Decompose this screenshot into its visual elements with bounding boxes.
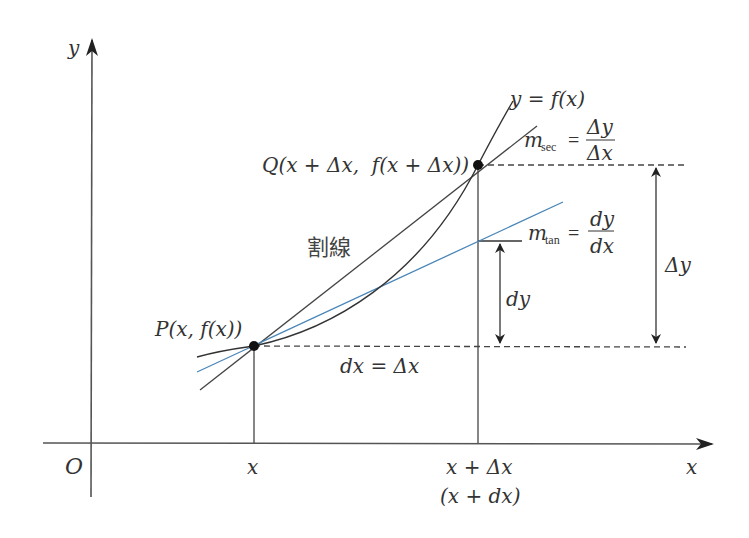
dx-equals-delta-x-label: dx = Δx xyxy=(340,354,419,378)
delta-y-label: Δy xyxy=(664,253,691,277)
svg-text:Δy: Δy xyxy=(586,115,613,139)
point-p xyxy=(249,341,259,351)
point-q xyxy=(473,160,483,170)
svg-text:sec: sec xyxy=(541,140,556,154)
point-p-label: P(x, f(x)) xyxy=(154,317,242,341)
y-axis-label: y xyxy=(67,36,80,60)
x-tick-label: x xyxy=(247,455,258,479)
x-axis-label: x xyxy=(686,455,697,479)
secant-label: 割線 xyxy=(307,235,351,260)
svg-text:=: = xyxy=(568,129,579,151)
tangent-slope-formula: m tan = dy dx xyxy=(528,207,615,258)
point-q-label: Q(x + Δx, f(x + Δx)) xyxy=(262,153,469,177)
axes xyxy=(43,40,712,497)
x-axis xyxy=(43,443,712,444)
y-axis xyxy=(91,40,92,497)
svg-text:dx: dx xyxy=(590,234,614,258)
svg-text:Δx: Δx xyxy=(586,141,613,165)
secant-slope-formula: m sec = Δy Δx xyxy=(524,115,615,165)
svg-text:tan: tan xyxy=(545,233,560,247)
curve-f xyxy=(197,101,513,357)
drop-lines xyxy=(254,165,478,443)
curve-label: y = f(x) xyxy=(509,87,585,111)
x-plus-dx-alt-label: (x + dx) xyxy=(440,484,520,508)
svg-text:dy: dy xyxy=(590,207,615,231)
x-plus-dx-tick-label: x + Δx xyxy=(446,455,512,479)
dashed-line-p-level xyxy=(254,346,686,347)
svg-text:=: = xyxy=(568,222,579,244)
origin-label: O xyxy=(65,454,83,479)
secant-tangent-diagram: y x O x x + Δx (x + dx) P(x, f(x)) Q(x +… xyxy=(0,0,749,538)
dy-label: dy xyxy=(506,287,531,311)
